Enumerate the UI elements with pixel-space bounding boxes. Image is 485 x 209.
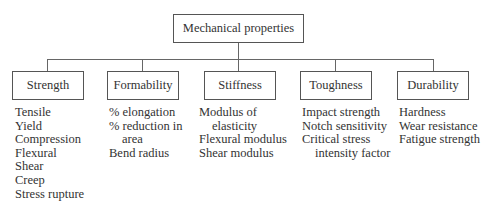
strength-connector [47, 59, 48, 71]
category-label: Formability [113, 78, 172, 93]
list-item: Shear modulus [199, 147, 287, 161]
list-item: Stress rupture [15, 188, 84, 202]
list-item: Shear [15, 160, 84, 174]
toughness-list: Impact strength Notch sensitivity Critic… [302, 106, 390, 160]
category-label: Toughness [309, 78, 362, 93]
list-item: Compression [15, 133, 84, 147]
category-label: Stiffness [218, 78, 262, 93]
list-item: elasticity [199, 120, 287, 134]
list-item: Flexural modulus [199, 133, 287, 147]
category-stiffness: Stiffness [204, 71, 276, 100]
horizontal-connector [47, 59, 434, 60]
category-label: Strength [27, 78, 69, 93]
root-label: Mechanical properties [183, 21, 294, 36]
durability-list: Hardness Wear resistance Fatigue strengt… [399, 106, 480, 147]
formability-connector [142, 59, 143, 71]
list-item: Yield [15, 120, 84, 134]
list-item: % reduction in [109, 120, 183, 134]
list-item: Notch sensitivity [302, 120, 390, 134]
list-item: Impact strength [302, 106, 390, 120]
strength-list: Tensile Yield Compression Flexural Shear… [15, 106, 84, 201]
list-item: Bend radius [109, 147, 183, 161]
list-item: Fatigue strength [399, 133, 480, 147]
stiffness-connector [238, 59, 239, 71]
list-item: Flexural [15, 147, 84, 161]
list-item: Modulus of [199, 106, 287, 120]
list-item: area [109, 133, 183, 147]
category-strength: Strength [12, 71, 84, 100]
list-item: Hardness [399, 106, 480, 120]
root-node: Mechanical properties [173, 14, 304, 43]
toughness-connector [335, 59, 336, 71]
list-item: Critical stress [302, 133, 390, 147]
root-connector [238, 42, 239, 59]
list-item: Wear resistance [399, 120, 480, 134]
category-label: Durability [407, 78, 458, 93]
category-durability: Durability [397, 71, 469, 100]
category-formability: Formability [107, 71, 179, 100]
formability-list: % elongation % reduction in area Bend ra… [109, 106, 183, 160]
durability-connector [433, 59, 434, 71]
list-item: intensity factor [302, 147, 390, 161]
category-toughness: Toughness [300, 71, 372, 100]
list-item: % elongation [109, 106, 183, 120]
list-item: Tensile [15, 106, 84, 120]
list-item: Creep [15, 174, 84, 188]
stiffness-list: Modulus of elasticity Flexural modulus S… [199, 106, 287, 160]
